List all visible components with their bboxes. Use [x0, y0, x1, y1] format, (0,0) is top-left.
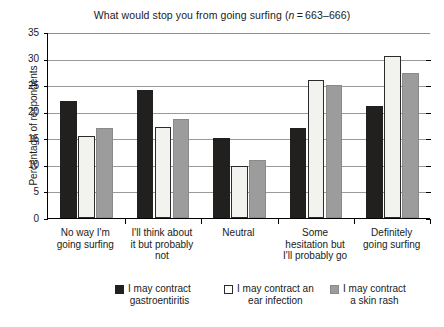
- x-axis-category-label-3: Somehesitation butI'll probably go: [271, 227, 360, 262]
- legend-label-1-line-0: I may contract an: [237, 283, 314, 295]
- x-axis-category-label-2-line-0: Neutral: [194, 227, 283, 239]
- y-axis-tick-label-25: 25: [17, 80, 39, 91]
- x-axis-category-label-4: Definitelygoing surfing: [347, 227, 436, 250]
- y-tick-mark-10: [44, 166, 48, 167]
- bar-4-2: [402, 73, 419, 218]
- bar-3-2: [326, 85, 343, 218]
- legend-label-0-line-1: gastroentiritis: [128, 295, 191, 307]
- x-axis-category-label-0-line-1: going surfing: [41, 239, 130, 251]
- plot-area: [47, 33, 430, 219]
- x-axis-category-label-3-line-1: hesitation but: [271, 239, 360, 251]
- y-tick-mark-right-25: [426, 86, 431, 87]
- bar-1-2: [173, 119, 190, 218]
- y-tick-mark-35: [44, 33, 48, 34]
- legend-label-2-line-1: a skin rash: [343, 295, 406, 307]
- bar-2-0: [213, 138, 230, 218]
- x-tick-2: [201, 219, 202, 224]
- x-tick-4: [354, 219, 355, 224]
- y-tick-mark-right-20: [426, 113, 431, 114]
- x-axis-category-label-1-line-2: not: [118, 250, 207, 262]
- x-axis-right-end-tick: [430, 219, 431, 224]
- y-axis-tick-label-5: 5: [17, 186, 39, 197]
- y-tick-mark-right-5: [426, 192, 431, 193]
- legend-label-2-line-0: I may contract: [343, 283, 406, 295]
- gridline-25: [48, 86, 430, 87]
- bar-4-0: [366, 106, 383, 218]
- x-axis-category-label-1: I'll think aboutit but probablynot: [118, 227, 207, 262]
- legend-swatch-black: [115, 285, 124, 294]
- bar-2-2: [249, 160, 266, 218]
- y-axis-tick-label-20: 20: [17, 106, 39, 117]
- gridline-30: [48, 60, 430, 61]
- bar-1-0: [137, 90, 154, 218]
- x-axis-category-label-3-line-0: Some: [271, 227, 360, 239]
- y-tick-mark-30: [44, 60, 48, 61]
- legend-label-2: I may contracta skin rash: [343, 283, 406, 306]
- y-axis-tick-label-0: 0: [17, 213, 39, 224]
- bar-3-0: [290, 128, 307, 218]
- bar-4-1: [384, 56, 401, 218]
- y-tick-mark-20: [44, 113, 48, 114]
- chart-title: What would stop you from going surfing (…: [0, 9, 444, 21]
- legend-label-1-line-1: ear infection: [237, 295, 314, 307]
- y-tick-mark-right-10: [426, 166, 431, 167]
- y-axis-tick-label-35: 35: [17, 27, 39, 38]
- figure-caption-remnant: [4, 316, 304, 324]
- x-axis-category-label-2: Neutral: [194, 227, 283, 239]
- x-tick-1: [125, 219, 126, 224]
- x-axis-category-label-0: No way I'mgoing surfing: [41, 227, 130, 250]
- x-tick-3: [278, 219, 279, 224]
- gridline-35: [48, 33, 430, 34]
- chart-legend: I may contractgastroentiritisI may contr…: [47, 283, 430, 315]
- y-tick-mark-25: [44, 86, 48, 87]
- y-tick-mark-right-30: [426, 60, 431, 61]
- y-axis-tick-label-30: 30: [17, 53, 39, 64]
- legend-swatch-gray: [330, 285, 339, 294]
- bar-0-1: [78, 136, 95, 218]
- x-axis-category-label-3-line-2: I'll probably go: [271, 250, 360, 262]
- y-tick-mark-5: [44, 192, 48, 193]
- x-axis-category-label-4-line-0: Definitely: [347, 227, 436, 239]
- legend-label-0: I may contractgastroentiritis: [128, 283, 191, 306]
- y-tick-mark-0: [44, 219, 48, 220]
- bar-2-1: [231, 166, 248, 218]
- x-axis-category-label-0-line-0: No way I'm: [41, 227, 130, 239]
- figure-bar-chart: What would stop you from going surfing (…: [0, 0, 444, 327]
- x-axis-category-label-1-line-0: I'll think about: [118, 227, 207, 239]
- y-axis-tick-label-15: 15: [17, 133, 39, 144]
- bar-0-2: [96, 128, 113, 218]
- legend-label-1: I may contract anear infection: [237, 283, 314, 306]
- legend-swatch-white: [224, 285, 233, 294]
- y-axis-tick-label-10: 10: [17, 159, 39, 170]
- bar-0-0: [60, 101, 77, 218]
- legend-label-0-line-0: I may contract: [128, 283, 191, 295]
- y-tick-mark-right-15: [426, 139, 431, 140]
- chart-title-prefix: What would stop you from going surfing (: [94, 9, 289, 21]
- x-axis-category-label-1-line-1: it but probably: [118, 239, 207, 251]
- chart-title-suffix: = 663–666): [294, 9, 350, 21]
- x-axis-category-label-4-line-1: going surfing: [347, 239, 436, 251]
- bar-1-1: [155, 127, 172, 218]
- bar-3-1: [308, 80, 325, 218]
- y-tick-mark-15: [44, 139, 48, 140]
